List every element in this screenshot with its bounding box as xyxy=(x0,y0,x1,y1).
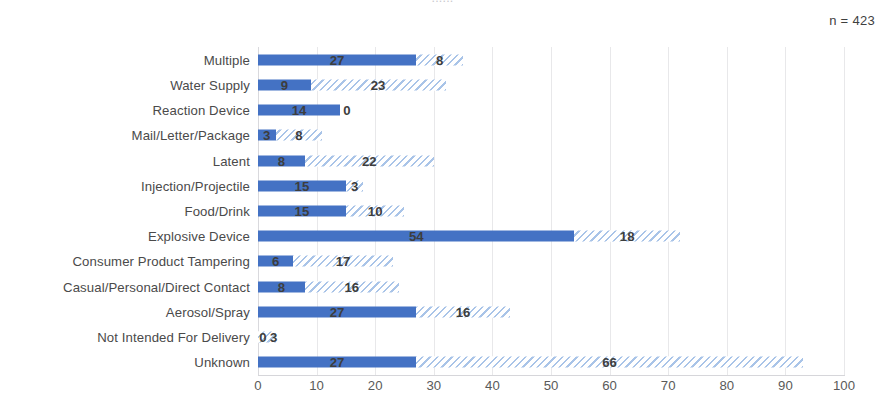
bar-segment-solid xyxy=(258,306,416,317)
bar-segment-solid xyxy=(258,357,416,368)
category-label: Unknown xyxy=(194,355,250,370)
bar-row: Multiple278 xyxy=(258,47,844,72)
bar-row: Food/Drink1510 xyxy=(258,198,844,223)
bar-segment-solid xyxy=(258,155,305,166)
bar-segment-hatched xyxy=(416,357,803,368)
category-label: Casual/Personal/Direct Contact xyxy=(63,279,250,294)
bar-segment-hatched xyxy=(311,79,446,90)
category-label: Consumer Product Tampering xyxy=(72,254,250,269)
category-label: Explosive Device xyxy=(148,229,250,244)
stacked-bar xyxy=(258,79,446,90)
bar-segment-solid xyxy=(258,105,340,116)
category-label: Multiple xyxy=(204,52,250,67)
sample-size-annotation: n = 423 xyxy=(829,13,875,28)
bar-segment-hatched xyxy=(276,130,323,141)
bar-segment-hatched xyxy=(293,256,393,267)
bar-segment-hatched xyxy=(346,205,405,216)
stacked-bar xyxy=(258,205,405,216)
category-label: Water Supply xyxy=(170,77,250,92)
x-tick-label: 100 xyxy=(833,378,855,393)
bar-segment-hatched xyxy=(574,231,679,242)
category-label: Aerosol/Spray xyxy=(166,304,250,319)
bar-row: Unknown2766 xyxy=(258,350,844,375)
bar-row: Injection/Projectile153 xyxy=(258,173,844,198)
bar-row: Mail/Letter/Package38 xyxy=(258,123,844,148)
x-tick-label: 0 xyxy=(254,378,261,393)
bar-row: Aerosol/Spray2716 xyxy=(258,299,844,324)
gridline-100 xyxy=(844,47,845,375)
stacked-bar xyxy=(258,105,340,116)
x-tick-label: 60 xyxy=(602,378,617,393)
plot-region: Multiple278Water Supply923Reaction Devic… xyxy=(258,47,844,375)
bar-row: Not Intended For Delivery03 xyxy=(258,325,844,350)
chart-plot-area: Multiple278Water Supply923Reaction Devic… xyxy=(0,42,885,408)
bar-segment-hatched xyxy=(346,180,364,191)
bar-segment-hatched xyxy=(305,155,434,166)
category-label: Latent xyxy=(213,153,250,168)
stacked-bar xyxy=(258,256,393,267)
bar-segment-solid xyxy=(258,54,416,65)
bar-segment-solid xyxy=(258,281,305,292)
x-tick-label: 10 xyxy=(309,378,324,393)
data-label-hatched: 0 xyxy=(343,103,350,118)
bar-segment-solid xyxy=(258,130,276,141)
bar-segment-solid xyxy=(258,231,574,242)
bar-segment-hatched xyxy=(305,281,399,292)
stacked-bar xyxy=(258,180,363,191)
x-tick-label: 30 xyxy=(426,378,441,393)
bar-segment-hatched xyxy=(258,332,276,343)
x-tick-label: 90 xyxy=(778,378,793,393)
bar-segment-solid xyxy=(258,205,346,216)
stacked-bar xyxy=(258,231,680,242)
stacked-bar xyxy=(258,54,463,65)
bar-row: Water Supply923 xyxy=(258,72,844,97)
category-label: Not Intended For Delivery xyxy=(97,330,250,345)
bar-segment-hatched xyxy=(416,54,463,65)
bar-row: Casual/Personal/Direct Contact816 xyxy=(258,274,844,299)
category-label: Injection/Projectile xyxy=(141,178,250,193)
stacked-bar xyxy=(258,306,510,317)
bar-row: Reaction Device140 xyxy=(258,97,844,122)
x-axis-line xyxy=(258,375,845,376)
clipped-chart-title: ...... xyxy=(0,0,885,7)
category-label: Reaction Device xyxy=(152,103,250,118)
x-tick-label: 40 xyxy=(485,378,500,393)
category-label: Mail/Letter/Package xyxy=(132,128,250,143)
x-tick-label: 50 xyxy=(544,378,559,393)
x-tick-label: 80 xyxy=(719,378,734,393)
bar-row: Consumer Product Tampering617 xyxy=(258,249,844,274)
bar-segment-hatched xyxy=(416,306,510,317)
category-label: Food/Drink xyxy=(185,203,251,218)
bar-segment-solid xyxy=(258,79,311,90)
stacked-bar xyxy=(258,130,322,141)
stacked-bar xyxy=(258,155,434,166)
bar-row: Latent822 xyxy=(258,148,844,173)
bar-segment-solid xyxy=(258,180,346,191)
x-axis-tick-labels: 0102030405060708090100 xyxy=(0,378,885,400)
bar-row: Explosive Device5418 xyxy=(258,224,844,249)
x-tick-label: 20 xyxy=(368,378,383,393)
stacked-bar xyxy=(258,332,276,343)
stacked-bar xyxy=(258,281,399,292)
bar-segment-solid xyxy=(258,256,293,267)
x-tick-label: 70 xyxy=(661,378,676,393)
stacked-bar xyxy=(258,357,803,368)
